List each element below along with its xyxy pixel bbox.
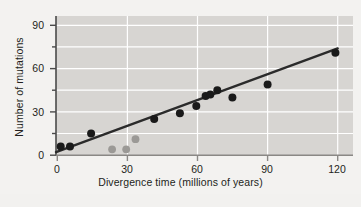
data-point bbox=[206, 91, 214, 99]
y-axis-ticks bbox=[50, 25, 56, 155]
data-point bbox=[331, 49, 339, 57]
x-tick-label-90: 90 bbox=[247, 163, 287, 175]
data-point bbox=[192, 102, 200, 110]
x-axis-ticks bbox=[57, 155, 337, 161]
data-point bbox=[87, 130, 95, 138]
chart-figure: 90 60 30 0 0 30 60 90 120 Divergence tim… bbox=[0, 0, 361, 207]
y-axis-title-wrapper: Number of mutations bbox=[9, 17, 27, 157]
x-tick-label-0: 0 bbox=[37, 163, 77, 175]
data-point bbox=[57, 142, 65, 150]
x-tick-label-120: 120 bbox=[317, 163, 357, 175]
data-point bbox=[176, 109, 184, 117]
y-axis-title: Number of mutations bbox=[13, 37, 25, 136]
data-point bbox=[213, 86, 221, 94]
plot-area-background bbox=[56, 16, 353, 155]
x-tick-label-60: 60 bbox=[177, 163, 217, 175]
data-point bbox=[228, 93, 236, 101]
data-point bbox=[150, 115, 158, 123]
x-tick-label-30: 30 bbox=[107, 163, 147, 175]
data-point-gray bbox=[108, 145, 116, 153]
data-point bbox=[264, 80, 272, 88]
x-axis-title: Divergence time (millions of years) bbox=[0, 176, 361, 188]
data-point-gray bbox=[132, 135, 140, 143]
data-point bbox=[66, 142, 74, 150]
data-point-gray bbox=[122, 145, 130, 153]
